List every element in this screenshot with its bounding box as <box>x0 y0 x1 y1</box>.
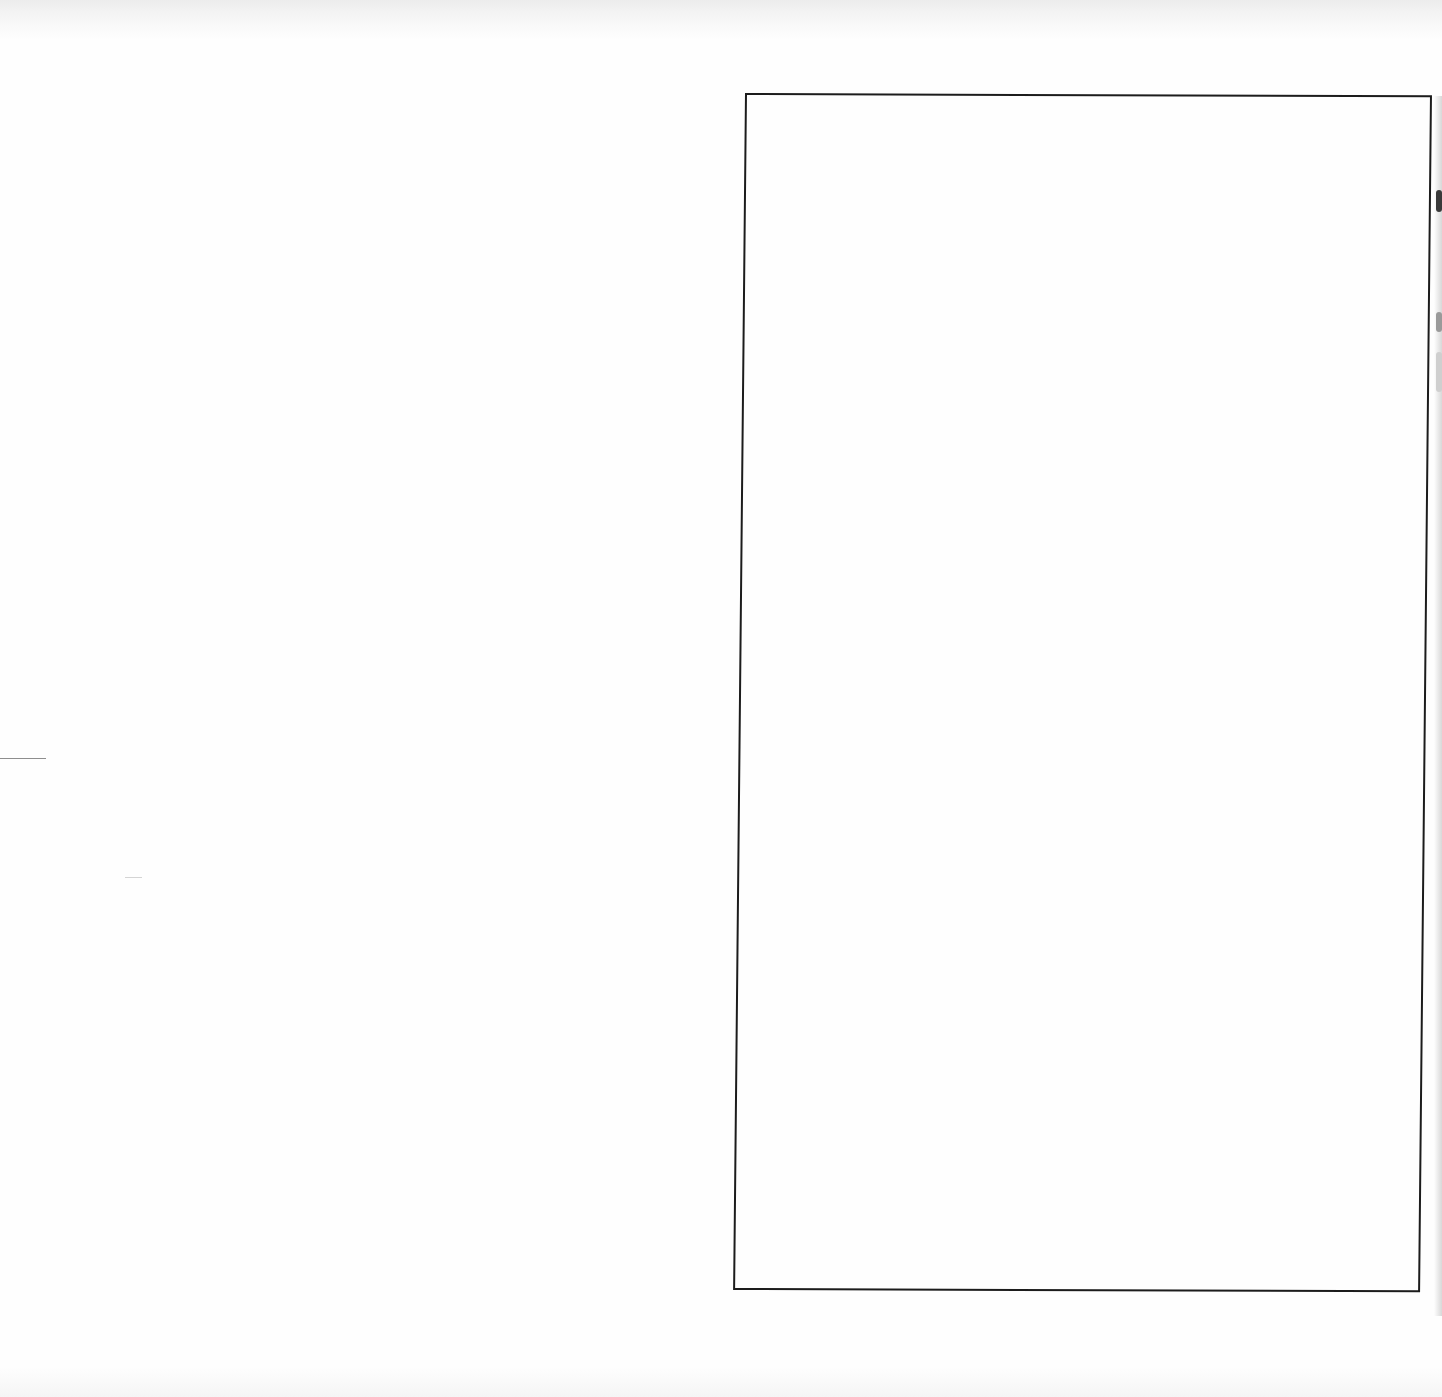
scan-noise-top <box>0 0 1442 40</box>
empty-bordered-box <box>733 93 1432 1292</box>
page-right-edge-shadow <box>1434 96 1442 1316</box>
edge-smudge <box>1436 352 1442 392</box>
edge-smudge <box>1436 312 1442 332</box>
scanned-page <box>0 0 1442 1397</box>
scan-noise-bottom <box>0 1367 1442 1397</box>
edge-smudge <box>1436 190 1442 212</box>
left-horizontal-rule <box>0 758 46 759</box>
faint-tick-mark <box>125 877 142 878</box>
